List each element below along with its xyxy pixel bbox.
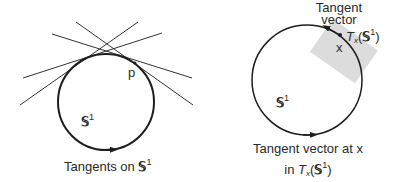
tangent-lines bbox=[20, 22, 193, 105]
circle-label-right: 𝕊1 bbox=[276, 94, 289, 109]
s1-exponent-right: 1 bbox=[284, 93, 289, 103]
point-p-label: p bbox=[128, 66, 135, 79]
caption-left: Tangents on 𝕊1 bbox=[64, 158, 151, 173]
point-x-text: x bbox=[336, 40, 343, 55]
caption-T: T bbox=[298, 162, 306, 177]
s1-symbol: 𝕊 bbox=[81, 114, 89, 129]
caption-right-line2: in Tx(𝕊1) bbox=[248, 157, 368, 182]
circle-s1-left bbox=[58, 54, 154, 150]
caption-s1-exponent: 1 bbox=[146, 157, 151, 167]
point-x-label: x bbox=[336, 41, 343, 54]
caption-right: Tangent vector at x in Tx(𝕊1) bbox=[248, 140, 368, 182]
caption-left-text: Tangents on bbox=[64, 159, 138, 174]
paren-close: ) bbox=[375, 29, 379, 44]
caption-paren-close: ) bbox=[327, 162, 331, 177]
caption-right-line1: Tangent vector at x bbox=[248, 140, 368, 157]
tangent-vector-label-line2: vector bbox=[313, 14, 365, 26]
tangent-vector-label: Tangent vector bbox=[313, 2, 365, 26]
caption-right-prefix: in bbox=[284, 162, 298, 177]
left-figure bbox=[20, 22, 193, 150]
tangent-space-label: Tx(𝕊1) bbox=[346, 28, 380, 45]
circle-label-left: 𝕊1 bbox=[81, 113, 94, 128]
tangent-space-T: T bbox=[346, 29, 354, 44]
s1-symbol-right: 𝕊 bbox=[276, 95, 284, 110]
point-p-text: p bbox=[128, 65, 135, 80]
point-x-dot bbox=[338, 33, 342, 37]
s1-exponent: 1 bbox=[89, 112, 94, 122]
